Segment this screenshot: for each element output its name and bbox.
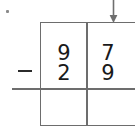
arrow-down-icon — [107, 0, 120, 24]
subtrahend-ones-digit: 9 — [98, 63, 118, 84]
subtrahend-tens-digit: 2 — [54, 63, 74, 84]
minus-operator-icon — [18, 70, 32, 72]
answer-tens-cell[interactable] — [42, 90, 85, 125]
answer-ones-cell[interactable] — [87, 90, 135, 125]
ink-speck — [6, 10, 9, 13]
subtraction-worksheet: 9 7 2 9 — [0, 0, 135, 131]
